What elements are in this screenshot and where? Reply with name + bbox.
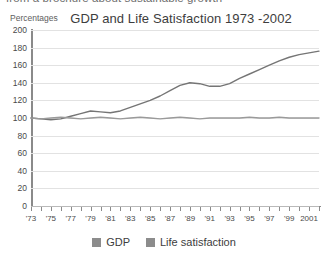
x-axis-tick-label: '99 (284, 214, 294, 223)
y-axis-tick-label: 100 (13, 113, 27, 123)
x-axis-tick-label: '91 (205, 214, 215, 223)
legend-entry-gdp: GDP (92, 236, 130, 248)
x-axis-tick (259, 207, 260, 211)
x-axis-tick-label: '83 (125, 214, 135, 223)
x-axis-tick (249, 207, 250, 211)
y-axis-tick-label: 80 (18, 131, 27, 141)
y-axis-tick-label: 120 (13, 95, 27, 105)
x-axis-tick (41, 207, 42, 211)
x-axis-tick (210, 207, 211, 211)
y-axis-tick-label: 200 (13, 25, 27, 35)
series-lines (31, 30, 319, 206)
x-axis-tick (299, 207, 300, 211)
x-axis-tick-label: '93 (224, 214, 234, 223)
x-axis-tick-label: '73 (26, 214, 36, 223)
x-axis-tick-label: '95 (244, 214, 254, 223)
x-axis-tick (71, 207, 72, 211)
x-axis-tick (140, 207, 141, 211)
x-axis-tick (200, 207, 201, 211)
x-axis-tick-labels: '73'75'77'79'81'83'85'87'89'91'93'95'97'… (31, 214, 321, 226)
x-axis-tick (220, 207, 221, 211)
x-axis-tick (51, 207, 52, 211)
series-line-gdp (31, 51, 319, 120)
x-axis-tick-label: '87 (165, 214, 175, 223)
x-axis-tick (150, 207, 151, 211)
chart-legend: GDP Life satisfaction (0, 236, 328, 248)
x-axis-tick (31, 207, 32, 211)
x-axis-tick (120, 207, 121, 211)
y-axis-tick-label: 140 (13, 78, 27, 88)
y-axis-tick-label: 60 (18, 148, 27, 158)
x-axis-tick (61, 207, 62, 211)
x-axis-tick (91, 207, 92, 211)
x-axis-tick-label: '97 (264, 214, 274, 223)
legend-label-life-satisfaction: Life satisfaction (160, 236, 236, 248)
y-axis-tick-label: 40 (18, 166, 27, 176)
legend-label-gdp: GDP (106, 236, 130, 248)
chart-container: Percentages GDP and Life Satisfaction 19… (0, 0, 328, 260)
y-axis-tick-label: 20 (18, 183, 27, 193)
x-axis-tick (240, 207, 241, 211)
x-axis-tick (180, 207, 181, 211)
x-axis-tick (81, 207, 82, 211)
y-axis-tick-labels: 200180160140120100806040200 (0, 30, 27, 206)
x-axis-tick (130, 207, 131, 211)
x-axis-tick (160, 207, 161, 211)
legend-swatch-gdp (92, 238, 101, 247)
x-axis-ticks (31, 207, 321, 212)
plot-area (31, 30, 319, 206)
y-axis-tick-label: 0 (22, 201, 27, 211)
chart-title: GDP and Life Satisfaction 1973 -2002 (0, 11, 328, 26)
x-axis-tick (190, 207, 191, 211)
x-axis-tick-label: '81 (105, 214, 115, 223)
x-axis-tick-label: '77 (66, 214, 76, 223)
x-axis-tick (110, 207, 111, 211)
x-axis-tick-label: '85 (145, 214, 155, 223)
x-axis-tick (289, 207, 290, 211)
x-axis-tick (170, 207, 171, 211)
x-axis-tick (319, 207, 320, 211)
x-axis-tick (279, 207, 280, 211)
x-axis-tick (230, 207, 231, 211)
series-line-life-satisfaction (31, 117, 319, 119)
legend-entry-life-satisfaction: Life satisfaction (146, 236, 236, 248)
y-axis-tick-label: 160 (13, 60, 27, 70)
x-axis-tick-label: '75 (46, 214, 56, 223)
y-axis-tick-label: 180 (13, 43, 27, 53)
legend-swatch-life-satisfaction (146, 238, 155, 247)
x-axis-tick-label: 2001 (300, 214, 318, 223)
x-axis-tick (101, 207, 102, 211)
x-axis-tick-label: '89 (185, 214, 195, 223)
x-axis-tick (269, 207, 270, 211)
x-axis-tick (309, 207, 310, 211)
x-axis-tick-label: '79 (85, 214, 95, 223)
